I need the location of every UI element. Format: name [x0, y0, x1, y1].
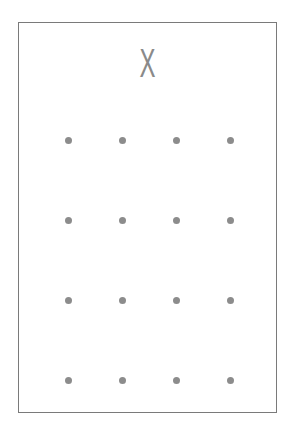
- grid-dot: [65, 377, 72, 384]
- grid-dot: [119, 297, 126, 304]
- grid-dot: [227, 377, 234, 384]
- dot-grid-card: X: [18, 22, 277, 413]
- grid-dot: [173, 377, 180, 384]
- grid-dot: [173, 137, 180, 144]
- grid-dot: [173, 297, 180, 304]
- grid-dot: [227, 137, 234, 144]
- grid-dot: [119, 377, 126, 384]
- grid-dot: [227, 217, 234, 224]
- card-symbol: X: [70, 43, 224, 83]
- grid-dot: [65, 217, 72, 224]
- grid-dot: [119, 137, 126, 144]
- grid-dot: [65, 137, 72, 144]
- grid-dot: [227, 297, 234, 304]
- grid-dot: [65, 297, 72, 304]
- grid-dot: [173, 217, 180, 224]
- grid-dot: [119, 217, 126, 224]
